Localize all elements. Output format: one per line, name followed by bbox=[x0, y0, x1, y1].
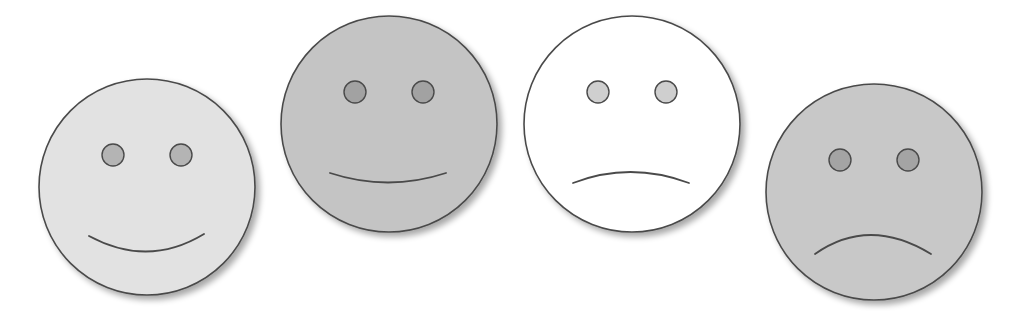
face-1-big-smile-face-icon bbox=[39, 79, 255, 295]
right-eye-icon bbox=[897, 149, 919, 171]
left-eye-icon bbox=[829, 149, 851, 171]
face-circle bbox=[39, 79, 255, 295]
right-eye-icon bbox=[170, 144, 192, 166]
right-eye-icon bbox=[412, 81, 434, 103]
left-eye-icon bbox=[587, 81, 609, 103]
face-3-slight-frown-face-icon bbox=[524, 16, 740, 232]
face-4-frown-face-icon bbox=[766, 84, 982, 300]
faces-canvas bbox=[0, 0, 1020, 311]
left-eye-icon bbox=[344, 81, 366, 103]
face-circle bbox=[281, 16, 497, 232]
right-eye-icon bbox=[655, 81, 677, 103]
left-eye-icon bbox=[102, 144, 124, 166]
face-circle bbox=[524, 16, 740, 232]
face-circle bbox=[766, 84, 982, 300]
face-2-slight-smile-face-icon bbox=[281, 16, 497, 232]
